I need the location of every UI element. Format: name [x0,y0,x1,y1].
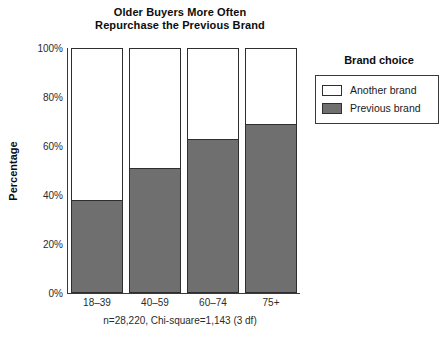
y-tick-40: 40% [43,190,63,201]
x-axis-ticks: 18–39 40–59 60–74 75+ [68,297,300,308]
plot-area: 0% 20% 40% 60% 80% 100% [68,48,300,293]
legend-box: Another brand Previous brand [315,75,439,124]
bar-slot [242,48,300,293]
chart-title: Older Buyers More Often Repurchase the P… [55,6,305,32]
legend-swatch-icon-previous-brand [322,103,342,114]
y-axis-label: Percentage [6,48,20,293]
segment-previous-brand[interactable] [72,200,122,292]
bar-slot [184,48,242,293]
x-axis-line [67,293,300,294]
stacked-bar[interactable] [187,48,239,293]
segment-another-brand[interactable] [246,49,296,124]
stacked-bar[interactable] [245,48,297,293]
bar-slot [126,48,184,293]
segment-another-brand[interactable] [130,49,180,168]
x-tick-label: 60–74 [184,297,242,308]
bar-slot [68,48,126,293]
legend-title: Brand choice [317,54,441,66]
y-tick-100: 100% [37,43,63,54]
y-tick-20: 20% [43,239,63,250]
segment-previous-brand[interactable] [246,124,296,292]
chart-annotation: n=28,220, Chi-square=1,143 (3 df) [55,315,305,326]
y-tick-60: 60% [43,141,63,152]
stacked-bar[interactable] [129,48,181,293]
bar-group [68,48,300,293]
x-tick-label: 40–59 [126,297,184,308]
segment-previous-brand[interactable] [130,168,180,292]
x-tick-label: 75+ [242,297,300,308]
chart-title-line-1: Older Buyers More Often [114,6,247,18]
y-axis-label-text: Percentage [7,141,19,200]
segment-another-brand[interactable] [72,49,122,200]
legend-label: Previous brand [350,102,421,114]
stacked-bar[interactable] [71,48,123,293]
x-tick-label: 18–39 [68,297,126,308]
y-tick-0: 0% [49,288,63,299]
legend-item-another-brand[interactable]: Another brand [322,81,432,99]
chart-title-line-2: Repurchase the Previous Brand [55,19,305,32]
segment-previous-brand[interactable] [188,139,238,292]
y-tick-80: 80% [43,92,63,103]
legend-item-previous-brand[interactable]: Previous brand [322,99,432,117]
legend-swatch-icon-another-brand [322,85,342,96]
legend-label: Another brand [350,84,417,96]
segment-another-brand[interactable] [188,49,238,139]
chart-figure: Older Buyers More Often Repurchase the P… [0,0,445,340]
